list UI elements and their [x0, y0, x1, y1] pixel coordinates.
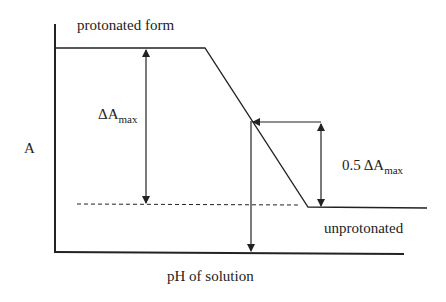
lower-plateau-label: unprotonated	[324, 220, 404, 236]
half-delta-label: 0.5 ΔAmax	[342, 157, 404, 176]
delta-a-max-label: ΔAmax	[98, 106, 138, 125]
dashed-baseline	[77, 204, 300, 205]
absorbance-curve	[55, 48, 427, 208]
y-axis-label: A	[24, 140, 35, 156]
x-axis-label: pH of solution	[167, 268, 254, 284]
titration-diagram: protonated form A ΔAmax 0.5 ΔAmax unprot…	[0, 0, 446, 302]
x-axis	[54, 252, 404, 254]
upper-plateau-label: protonated form	[77, 17, 174, 33]
